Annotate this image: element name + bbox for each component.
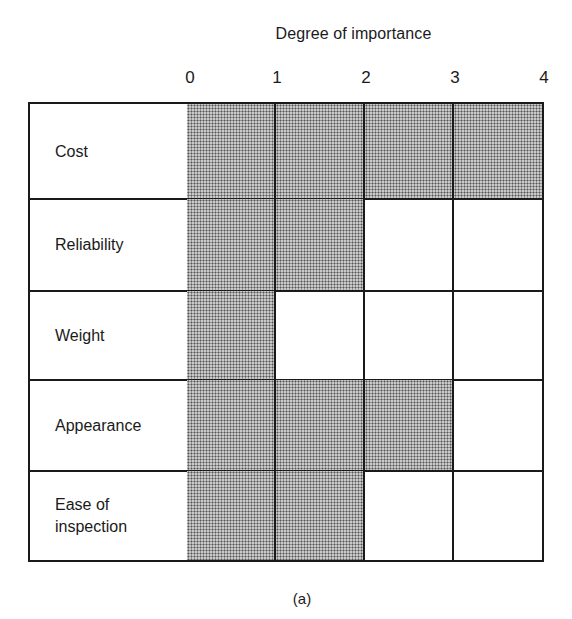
- row-label: Appearance: [30, 380, 189, 471]
- shaded-cell: [276, 199, 365, 291]
- chart-title: Degree of importance: [0, 25, 572, 43]
- shaded-cell: [187, 104, 276, 199]
- shaded-cell: [454, 104, 542, 199]
- empty-cell: [454, 380, 542, 471]
- row-label: Weight: [30, 291, 189, 380]
- x-tick-0: 0: [180, 68, 200, 88]
- shaded-cell: [365, 380, 454, 471]
- row-label: Cost: [30, 104, 189, 199]
- shaded-cell: [187, 380, 276, 471]
- x-tick-4: 4: [534, 68, 554, 88]
- table-row: Ease of inspection: [30, 471, 542, 560]
- x-tick-2: 2: [356, 68, 376, 88]
- table-row: Appearance: [30, 380, 542, 471]
- row-label: Reliability: [30, 199, 189, 291]
- shaded-cell: [276, 471, 365, 560]
- shaded-cell: [276, 104, 365, 199]
- empty-cell: [365, 471, 454, 560]
- empty-cell: [365, 199, 454, 291]
- shaded-cell: [187, 291, 276, 380]
- shaded-cell: [365, 104, 454, 199]
- empty-cell: [454, 291, 542, 380]
- table-row: Weight: [30, 291, 542, 380]
- empty-cell: [454, 471, 542, 560]
- empty-cell: [365, 291, 454, 380]
- table-row: Cost: [30, 104, 542, 199]
- shaded-cell: [187, 199, 276, 291]
- shaded-cell: [276, 380, 365, 471]
- importance-grid: CostReliabilityWeightAppearanceEase of i…: [28, 102, 544, 562]
- row-label: Ease of inspection: [30, 471, 189, 560]
- shaded-cell: [187, 471, 276, 560]
- figure-caption: (a): [290, 590, 314, 607]
- x-tick-3: 3: [445, 68, 465, 88]
- x-tick-1: 1: [267, 68, 287, 88]
- empty-cell: [276, 291, 365, 380]
- empty-cell: [454, 199, 542, 291]
- table-row: Reliability: [30, 199, 542, 291]
